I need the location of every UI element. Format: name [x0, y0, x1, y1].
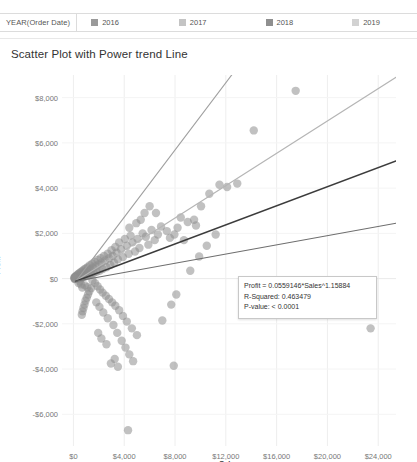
y-tick-label: -$4,000: [33, 365, 58, 374]
scatter-point[interactable]: [291, 87, 299, 95]
scatter-point[interactable]: [133, 331, 141, 339]
legend-item-label: 2019: [363, 18, 380, 27]
y-tick-label: $6,000: [35, 138, 58, 147]
legend-item-label: 2017: [190, 18, 207, 27]
y-tick-label: -$6,000: [33, 410, 58, 419]
y-axis-label: Profit: [0, 257, 2, 275]
scatter-point[interactable]: [366, 324, 374, 332]
scatter-point[interactable]: [109, 321, 117, 329]
scatter-point[interactable]: [140, 209, 148, 217]
legend-item-label: 2016: [102, 18, 119, 27]
trendline-annotation-tooltip[interactable]: Profit = 0.0559146*Sales^1.15884 R-Squar…: [238, 276, 377, 319]
scatter-point[interactable]: [167, 300, 175, 308]
scatter-point[interactable]: [184, 218, 192, 226]
chart-card: Scatter Plot with Power trend Line $8,00…: [0, 38, 417, 462]
legend-items: 2016201720182019: [77, 18, 380, 27]
scatter-svg: [62, 75, 396, 446]
scatter-point[interactable]: [104, 314, 112, 322]
scatter-point[interactable]: [114, 363, 122, 371]
plot-area[interactable]: [62, 75, 396, 446]
plot-wrapper: $8,000$6,000$4,000$2,000$0-$2,000-$4,000…: [0, 69, 417, 462]
scatter-point[interactable]: [144, 240, 152, 248]
scatter-point[interactable]: [192, 221, 200, 229]
y-tick-label: $4,000: [35, 184, 58, 193]
scatter-point[interactable]: [152, 209, 160, 217]
scatter-point[interactable]: [211, 230, 219, 238]
legend-bar: YEAR(Order Date) 2016201720182019: [0, 13, 417, 32]
scatter-point[interactable]: [113, 329, 121, 337]
legend-swatch-icon: [266, 19, 273, 26]
page-title: Scatter Plot with Power trend Line: [11, 48, 188, 60]
chart-screenshot: YEAR(Order Date) 2016201720182019 Scatte…: [0, 0, 417, 462]
scatter-point[interactable]: [125, 223, 133, 231]
scatter-point[interactable]: [186, 266, 194, 274]
legend-swatch-icon: [179, 19, 186, 26]
scatter-point[interactable]: [128, 324, 136, 332]
scatter-point[interactable]: [124, 426, 132, 434]
scatter-point[interactable]: [78, 311, 86, 319]
scatter-point[interactable]: [170, 361, 178, 369]
legend-item-2019[interactable]: 2019: [352, 18, 380, 27]
y-tick-label: $8,000: [35, 93, 58, 102]
scatter-point[interactable]: [123, 317, 131, 325]
legend-title: YEAR(Order Date): [0, 18, 70, 27]
scatter-point[interactable]: [83, 283, 91, 291]
legend-item-2016[interactable]: 2016: [91, 18, 119, 27]
scatter-point[interactable]: [172, 290, 180, 298]
scatter-points-group: [70, 87, 375, 435]
legend-item-2018[interactable]: 2018: [266, 18, 294, 27]
y-tick-label: $2,000: [35, 229, 58, 238]
legend-item-label: 2018: [277, 18, 294, 27]
trendline-r-squared: R-Squared: 0.463479: [244, 292, 371, 303]
scatter-point[interactable]: [250, 126, 258, 134]
legend-swatch-icon: [91, 19, 98, 26]
scatter-point[interactable]: [94, 329, 102, 337]
legend-item-2017[interactable]: 2017: [179, 18, 207, 27]
scatter-point[interactable]: [203, 242, 211, 250]
scatter-point[interactable]: [145, 202, 153, 210]
legend-swatch-icon: [352, 19, 359, 26]
trendline-equation: Profit = 0.0559146*Sales^1.15884: [244, 281, 371, 292]
y-tick-label: -$2,000: [33, 319, 58, 328]
y-tick-label: $0: [50, 274, 58, 283]
trendline-p-value: P-value: < 0.0001: [244, 302, 371, 313]
scatter-point[interactable]: [132, 219, 140, 227]
y-axis-ticks: $8,000$6,000$4,000$2,000$0-$2,000-$4,000…: [14, 75, 58, 446]
scatter-point[interactable]: [158, 316, 166, 324]
scatter-point[interactable]: [129, 357, 137, 365]
